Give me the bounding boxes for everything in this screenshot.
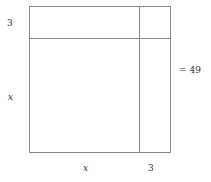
left-label-bottom: x bbox=[8, 92, 13, 102]
outer-square bbox=[29, 6, 171, 153]
vertical-divider bbox=[139, 6, 140, 153]
horizontal-divider bbox=[29, 38, 171, 39]
left-label-top: 3 bbox=[7, 18, 13, 28]
bottom-label-right: 3 bbox=[148, 163, 154, 173]
equation-label: = 49 bbox=[179, 65, 201, 75]
bottom-label-left: x bbox=[83, 163, 88, 173]
